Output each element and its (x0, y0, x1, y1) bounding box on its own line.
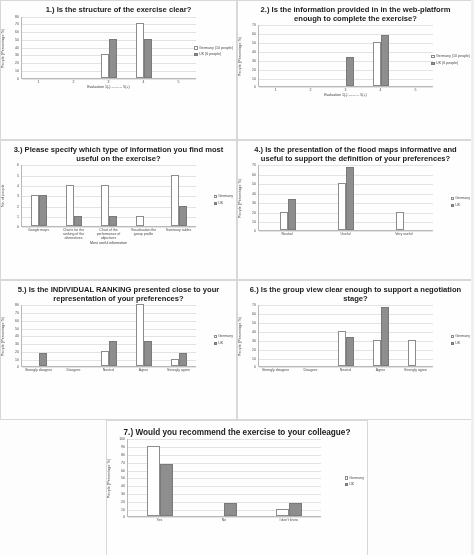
bar-group (259, 25, 294, 86)
y-tick-label: 0 (123, 515, 125, 519)
chart-row-4: 7.) Would you recommend the exercise to … (0, 420, 474, 555)
plot-area: People (Percentage %)706050403020100Germ… (238, 25, 473, 87)
x-tick-label: 1 (21, 80, 56, 84)
bar-group (161, 305, 196, 366)
y-tick-label: 80 (121, 453, 125, 457)
y-tick-label: 4 (17, 184, 19, 188)
y-tick-label: 30 (252, 59, 256, 63)
bar-uk (74, 216, 82, 226)
y-tick-label: 50 (252, 182, 256, 186)
bar-group (257, 439, 321, 516)
y-tick-label: 20 (15, 350, 19, 354)
x-axis-ticks: NeutralUsefulVery useful (258, 232, 433, 236)
chart-title: 7.) Would you recommend the exercise to … (107, 421, 367, 439)
bar-group (329, 25, 364, 86)
legend-item-uk: UK (6 people) (194, 51, 233, 58)
bar-uk (144, 39, 152, 78)
legend-label: UK (218, 200, 223, 207)
x-axis-ticks: YesNoI don't know (127, 518, 321, 522)
y-tick-label: 1 (17, 215, 19, 219)
y-tick-label: 0 (254, 85, 256, 89)
bar-group (57, 165, 92, 226)
bar-group (259, 165, 317, 230)
legend-label: Germany (349, 475, 364, 482)
y-tick-label: 60 (252, 32, 256, 36)
y-tick-label: 10 (252, 357, 256, 361)
chart-title: 4.) Is the presentation of the flood map… (238, 141, 473, 165)
y-tick-label: 70 (15, 22, 19, 26)
legend-label: UK (218, 340, 223, 347)
y-axis-ticks: 1009080706050403020100 (114, 439, 127, 517)
bar-group (161, 165, 196, 226)
y-tick-label: 70 (15, 311, 19, 315)
bar-uk (39, 353, 47, 366)
legend-label: Germany (218, 333, 233, 340)
y-tick-label: 30 (252, 201, 256, 205)
x-tick-label: Yes (127, 518, 192, 522)
chart-legend: Germany (10 people)UK (6 people) (194, 45, 233, 59)
bar-group (329, 305, 364, 366)
gridline (259, 87, 433, 88)
y-tick-label: 70 (121, 461, 125, 465)
plot-canvas (21, 165, 196, 227)
y-tick-label: 50 (121, 476, 125, 480)
bar-germany (373, 340, 381, 367)
y-tick-label: 70 (252, 163, 256, 167)
y-tick-label: 10 (252, 77, 256, 81)
bar-uk (381, 35, 389, 86)
legend-item-uk: UK (6 people) (431, 60, 470, 67)
legend-label: UK (455, 340, 460, 347)
x-tick-label: I don't know (256, 518, 321, 522)
bar-group (57, 17, 92, 78)
y-tick-label: 50 (252, 321, 256, 325)
gridline (128, 517, 321, 518)
x-tick-label: Visualisation the group profile (126, 228, 161, 240)
bar-germany (31, 195, 39, 226)
y-tick-label: 60 (15, 30, 19, 34)
bar-germany (373, 42, 381, 86)
chart-title: 1.) Is the structure of the exercise cle… (1, 1, 236, 17)
bar-group (126, 305, 161, 366)
bar-group (128, 439, 192, 516)
legend-label: Germany (10 people) (199, 45, 233, 52)
bar-group (126, 17, 161, 78)
bar-uk (39, 195, 47, 226)
bar-group (294, 305, 329, 366)
y-tick-label: 40 (121, 484, 125, 488)
x-tick-label: Chart of the performance of objectives (91, 228, 126, 240)
bar-group (22, 165, 57, 226)
y-tick-label: 90 (121, 445, 125, 449)
y-axis-ticks: 706050403020100 (245, 25, 258, 87)
y-tick-label: 40 (252, 192, 256, 196)
y-tick-label: 50 (252, 41, 256, 45)
bar-group (126, 165, 161, 226)
y-tick-label: 10 (121, 508, 125, 512)
bar-uk (346, 57, 354, 86)
y-tick-label: 10 (15, 69, 19, 73)
bar-group-container (22, 165, 196, 226)
bar-group (294, 25, 329, 86)
x-axis-ticks: Google mapsCharts for the ranking of the… (21, 228, 196, 240)
gridline (259, 367, 433, 368)
bar-group (363, 305, 398, 366)
y-tick-label: 0 (17, 365, 19, 369)
y-axis-ticks: 80706050403020100 (8, 305, 21, 367)
bar-group (57, 305, 92, 366)
y-tick-label: 60 (252, 312, 256, 316)
plot-area: People (Percentage %)80706050403020100Ge… (1, 17, 236, 79)
bar-group-container (259, 305, 433, 366)
bar-uk (109, 216, 117, 226)
bar-group (192, 439, 256, 516)
chart-legend: GermanyUK (451, 333, 470, 347)
legend-item-germany: Germany (214, 193, 233, 200)
bar-germany (396, 212, 404, 231)
bar-germany (136, 23, 144, 77)
x-tick-label: Very useful (375, 232, 433, 236)
y-tick-label: 40 (15, 46, 19, 50)
legend-swatch-uk-icon (451, 342, 454, 345)
x-tick-label: 1 (258, 88, 293, 92)
x-tick-label: Disagree (56, 368, 91, 372)
bar-uk (144, 341, 152, 367)
legend-swatch-germany-icon (214, 335, 217, 338)
legend-item-uk: UK (451, 340, 470, 347)
